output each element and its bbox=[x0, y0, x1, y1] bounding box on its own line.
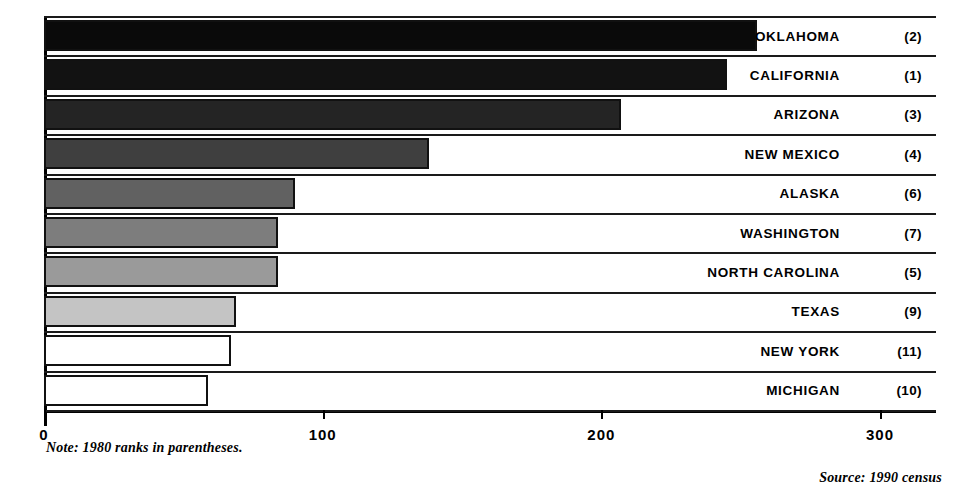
bar-row: NEW YORK(11) bbox=[44, 331, 936, 370]
x-tick bbox=[601, 410, 603, 419]
bar-rank-annotation: (1) bbox=[846, 68, 922, 83]
bar-rank-annotation: (4) bbox=[846, 146, 922, 161]
bar bbox=[44, 138, 429, 169]
bar-category-label: ALASKA bbox=[780, 186, 840, 201]
bar-rank-annotation: (7) bbox=[846, 225, 922, 240]
x-tick-label: 100 bbox=[309, 426, 337, 443]
bar-category-label: NORTH CAROLINA bbox=[707, 265, 840, 280]
row-separator bbox=[44, 371, 936, 373]
bar-category-label: MICHIGAN bbox=[766, 383, 840, 398]
bar-row: OKLAHOMA(2) bbox=[44, 16, 936, 55]
bar-rank-annotation: (9) bbox=[846, 304, 922, 319]
x-tick-label: 300 bbox=[866, 426, 894, 443]
chart-note: Note: 1980 ranks in parentheses. bbox=[46, 440, 243, 456]
bar-rank-annotation: (5) bbox=[846, 265, 922, 280]
row-separator bbox=[44, 16, 936, 18]
bar-row: ARIZONA(3) bbox=[44, 95, 936, 134]
row-separator bbox=[44, 410, 936, 412]
bar-row: WASHINGTON(7) bbox=[44, 213, 936, 252]
bar-rank-annotation: (6) bbox=[846, 186, 922, 201]
x-tick bbox=[44, 410, 46, 419]
bar bbox=[44, 217, 278, 248]
bar-row: NEW MEXICO(4) bbox=[44, 134, 936, 173]
row-separator bbox=[44, 292, 936, 294]
x-tick bbox=[880, 410, 882, 419]
plot-area: OKLAHOMA(2)CALIFORNIA(1)ARIZONA(3)NEW ME… bbox=[44, 16, 936, 410]
bar-category-label: TEXAS bbox=[791, 304, 840, 319]
chart-source: Source: 1990 census bbox=[819, 470, 942, 486]
bar-row: MICHIGAN(10) bbox=[44, 371, 936, 410]
row-separator bbox=[44, 252, 936, 254]
bar-category-label: NEW YORK bbox=[760, 343, 840, 358]
bar-category-label: OKLAHOMA bbox=[755, 28, 840, 43]
bar-row: NORTH CAROLINA(5) bbox=[44, 252, 936, 291]
x-tick bbox=[323, 410, 325, 419]
row-separator bbox=[44, 174, 936, 176]
bar-category-label: NEW MEXICO bbox=[744, 146, 840, 161]
bar bbox=[44, 59, 727, 90]
x-tick-label: 200 bbox=[587, 426, 615, 443]
bar bbox=[44, 335, 231, 366]
bar bbox=[44, 375, 208, 406]
bar bbox=[44, 256, 278, 287]
bar-chart: OKLAHOMA(2)CALIFORNIA(1)ARIZONA(3)NEW ME… bbox=[0, 0, 964, 492]
bar bbox=[44, 20, 757, 51]
bar-category-label: ARIZONA bbox=[774, 107, 840, 122]
bar bbox=[44, 178, 295, 209]
row-separator bbox=[44, 55, 936, 57]
bar-category-label: WASHINGTON bbox=[740, 225, 840, 240]
bar-rank-annotation: (2) bbox=[846, 28, 922, 43]
row-separator bbox=[44, 134, 936, 136]
bar-category-label: CALIFORNIA bbox=[750, 68, 840, 83]
bar-row: ALASKA(6) bbox=[44, 174, 936, 213]
bar-rank-annotation: (10) bbox=[846, 383, 922, 398]
row-separator bbox=[44, 213, 936, 215]
bar-row: TEXAS(9) bbox=[44, 292, 936, 331]
bar bbox=[44, 296, 236, 327]
bar bbox=[44, 99, 621, 130]
bar-rank-annotation: (3) bbox=[846, 107, 922, 122]
bar-rank-annotation: (11) bbox=[846, 343, 922, 358]
bar-row: CALIFORNIA(1) bbox=[44, 55, 936, 94]
row-separator bbox=[44, 331, 936, 333]
row-separator bbox=[44, 95, 936, 97]
